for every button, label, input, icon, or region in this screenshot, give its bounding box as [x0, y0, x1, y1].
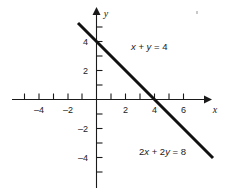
equation-lower-token-4: = 8 — [170, 146, 186, 157]
x-tick-label-neg2: –2 — [63, 105, 73, 115]
x-tick-label-6: 6 — [181, 105, 186, 115]
equation-label-upper: x + y = 4 — [130, 41, 167, 52]
scan-speck — [196, 11, 198, 14]
y-axis-arrow-icon — [93, 7, 101, 15]
x-tick-label-4: 4 — [152, 105, 157, 115]
equation-upper-token-3: = 4 — [151, 41, 167, 52]
x-axis-label: x — [212, 104, 218, 115]
graph-figure: –4 –2 2 4 6 4 2 –2 –4 x y x + y = 4 2x +… — [0, 0, 228, 195]
x-tick-label-2: 2 — [123, 105, 128, 115]
y-tick-label-2: 2 — [83, 66, 88, 76]
coordinate-plane: –4 –2 2 4 6 4 2 –2 –4 x y x + y = 4 2x +… — [0, 0, 228, 195]
y-axis-label: y — [103, 8, 109, 19]
y-tick-label-4: 4 — [83, 37, 88, 47]
equation-label-lower: 2x + 2y = 8 — [139, 146, 186, 157]
x-axis-ticks — [25, 94, 184, 100]
y-tick-label-neg4: –4 — [78, 153, 88, 163]
x-axis-arrow-icon — [204, 96, 212, 104]
equation-upper-token-1: + — [136, 41, 147, 52]
x-tick-label-neg4: –4 — [34, 105, 44, 115]
y-tick-label-neg2: –2 — [78, 124, 88, 134]
equation-lower-token-2: + 2 — [149, 146, 165, 157]
